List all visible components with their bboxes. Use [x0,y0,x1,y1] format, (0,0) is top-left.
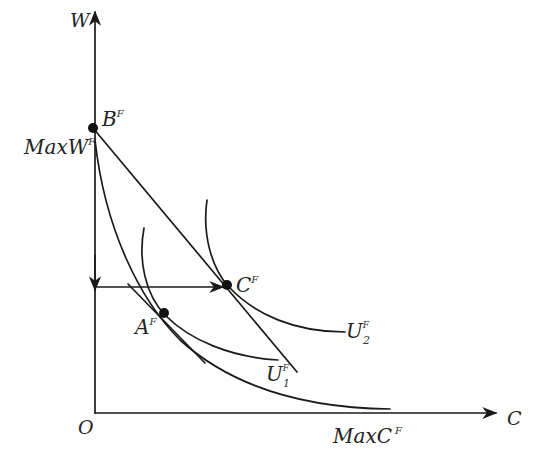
w-axis-label: W [70,9,91,31]
point-a-label: AF [133,315,157,339]
economics-diagram: W C O BF MaxWF CF AF UF2 UF1 MaxCF [0,0,539,472]
origin-label: O [78,416,94,438]
max-c-label: MaxCF [332,424,403,448]
max-w-label: MaxWF [23,135,96,159]
c-axis-label: C [507,407,522,429]
point-c [222,280,232,290]
point-a [159,308,169,318]
point-c-label: CF [236,273,259,297]
indifference-curve-u2 [206,200,345,332]
figure-caption [86,462,456,472]
u1-label: UF1 [266,362,290,390]
point-b [88,123,98,133]
u2-label: UF2 [346,319,370,347]
point-b-label: BF [101,107,125,131]
budget-line [93,128,297,372]
